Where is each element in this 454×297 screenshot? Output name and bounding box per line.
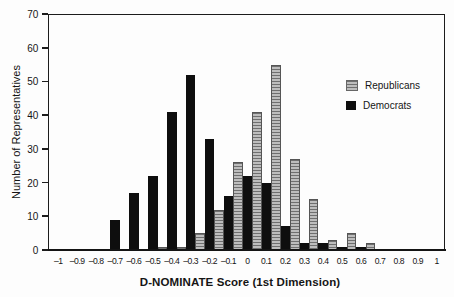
x-tick-label--0.4: –0.4: [164, 256, 179, 266]
legend-item-democrats: Democrats: [346, 100, 420, 111]
legend-label-republicans: Republicans: [365, 80, 420, 91]
y-tick-70: [42, 13, 48, 15]
y-tick-10: [42, 215, 48, 217]
bar-republicans--0.1: [233, 162, 242, 250]
republicans-swatch-icon: [346, 80, 358, 91]
bar-republicans-0.2: [290, 159, 299, 250]
democrats-swatch-icon: [346, 101, 356, 110]
legend: Republicans Democrats: [346, 80, 420, 120]
x-tick-label-0.6: 0.6: [356, 256, 367, 266]
x-tick-label--0.8: –0.8: [89, 256, 104, 266]
bar-democrats-0.2: [281, 226, 290, 250]
bar-democrats-0.1: [262, 183, 271, 250]
bar-republicans-0.5: [347, 233, 356, 250]
bar-democrats-0: [243, 176, 252, 250]
legend-item-republicans: Republicans: [346, 80, 420, 91]
x-tick-label-0.3: 0.3: [299, 256, 310, 266]
x-tick-label--0.5: –0.5: [145, 256, 160, 266]
bar-democrats--0.3: [186, 75, 195, 250]
x-tick-label--1: –1: [54, 256, 63, 266]
x-tick-label-0.4: 0.4: [318, 256, 329, 266]
x-tick-label-1: 1: [435, 256, 439, 266]
x-tick-label-0.1: 0.1: [261, 256, 272, 266]
x-tick-label--0.7: –0.7: [108, 256, 123, 266]
x-tick-label-0.8: 0.8: [394, 256, 405, 266]
y-tick-label-10: 10: [12, 211, 38, 222]
y-tick-40: [42, 114, 48, 116]
y-tick-60: [42, 47, 48, 49]
y-tick-0: [42, 249, 48, 251]
x-tick-label--0.6: –0.6: [127, 256, 142, 266]
x-tick-label-0.2: 0.2: [280, 256, 291, 266]
bar-republicans--0.2: [214, 210, 223, 250]
x-tick-label--0.1: –0.1: [221, 256, 236, 266]
y-tick-label-0: 0: [12, 245, 38, 256]
y-tick-50: [42, 81, 48, 83]
x-tick-label--0.2: –0.2: [202, 256, 217, 266]
dnominate-histogram-figure: 010203040506070 –1–0.9–0.8–0.7–0.6–0.5–0…: [0, 0, 454, 297]
bar-democrats--0.6: [129, 193, 138, 250]
x-axis-title: D-NOMINATE Score (1st Dimension): [110, 276, 370, 288]
bar-republicans-0: [252, 112, 261, 250]
bar-democrats--0.4: [167, 112, 176, 250]
bar-republicans--0.3: [195, 233, 204, 250]
x-tick-label-0: 0: [245, 256, 249, 266]
x-axis-line: [47, 249, 446, 251]
bar-democrats--0.2: [205, 139, 214, 250]
bar-democrats--0.5: [148, 176, 157, 250]
y-tick-30: [42, 148, 48, 150]
y-tick-20: [42, 182, 48, 184]
bar-democrats--0.7: [110, 220, 119, 250]
y-axis-title: Number of Representatives: [10, 52, 22, 212]
x-tick-label-0.7: 0.7: [375, 256, 386, 266]
x-tick-label-0.5: 0.5: [337, 256, 348, 266]
x-tick-label--0.3: –0.3: [183, 256, 198, 266]
x-tick-label--0.9: –0.9: [70, 256, 85, 266]
bar-republicans-0.1: [271, 65, 280, 250]
legend-label-democrats: Democrats: [363, 100, 411, 111]
y-tick-label-70: 70: [12, 9, 38, 20]
bar-republicans-0.3: [309, 199, 318, 250]
bar-democrats--0.1: [224, 196, 233, 250]
x-tick-label-0.9: 0.9: [412, 256, 423, 266]
